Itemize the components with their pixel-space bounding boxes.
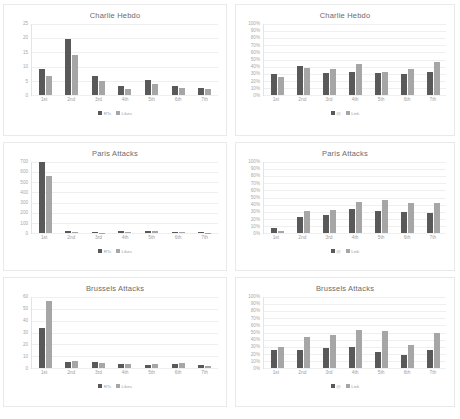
bar[interactable] xyxy=(99,81,105,95)
bar-group[interactable] xyxy=(172,24,185,95)
bar-group[interactable] xyxy=(39,297,52,368)
bar[interactable] xyxy=(172,364,178,368)
bar[interactable] xyxy=(46,176,52,233)
bar-group[interactable] xyxy=(427,297,440,368)
bar[interactable] xyxy=(179,232,185,233)
bar[interactable] xyxy=(304,211,310,233)
bar-group[interactable] xyxy=(92,162,105,233)
bar[interactable] xyxy=(72,232,78,233)
bar[interactable] xyxy=(65,362,71,368)
bar[interactable] xyxy=(356,202,362,233)
bar[interactable] xyxy=(401,74,407,95)
bar-group[interactable] xyxy=(349,24,362,95)
bar[interactable] xyxy=(179,363,185,368)
bar-group[interactable] xyxy=(427,24,440,95)
bar[interactable] xyxy=(297,66,303,95)
bar-group[interactable] xyxy=(349,297,362,368)
legend-item[interactable]: Likes xyxy=(116,111,132,116)
bar[interactable] xyxy=(39,162,45,233)
legend-item[interactable]: Link xyxy=(346,249,360,254)
bar[interactable] xyxy=(330,335,336,368)
bar[interactable] xyxy=(349,347,355,368)
bar[interactable] xyxy=(205,233,211,234)
bar-group[interactable] xyxy=(172,297,185,368)
bar[interactable] xyxy=(323,348,329,368)
bar[interactable] xyxy=(434,203,440,233)
bar-group[interactable] xyxy=(323,162,336,233)
bar[interactable] xyxy=(278,347,284,368)
bar-group[interactable] xyxy=(297,162,310,233)
bar[interactable] xyxy=(99,233,105,234)
bar[interactable] xyxy=(118,231,124,233)
bar[interactable] xyxy=(65,39,71,95)
bar[interactable] xyxy=(297,217,303,233)
bar-group[interactable] xyxy=(145,24,158,95)
legend-item[interactable]: Link xyxy=(346,111,360,116)
legend-item[interactable]: @ xyxy=(331,111,341,116)
bar-group[interactable] xyxy=(65,24,78,95)
bar-group[interactable] xyxy=(375,24,388,95)
bar[interactable] xyxy=(304,337,310,368)
bar-group[interactable] xyxy=(401,162,414,233)
bar-group[interactable] xyxy=(39,162,52,233)
bar-group[interactable] xyxy=(297,24,310,95)
bar[interactable] xyxy=(179,88,185,95)
bar[interactable] xyxy=(356,64,362,95)
bar[interactable] xyxy=(434,62,440,95)
bar[interactable] xyxy=(356,330,362,368)
bar[interactable] xyxy=(401,355,407,368)
legend-item[interactable]: Likes xyxy=(116,384,132,389)
bar[interactable] xyxy=(427,350,433,368)
bar[interactable] xyxy=(434,333,440,368)
legend-item[interactable]: Likes xyxy=(116,249,132,254)
bar[interactable] xyxy=(152,364,158,368)
bar-group[interactable] xyxy=(198,297,211,368)
bar[interactable] xyxy=(65,231,71,233)
legend-item[interactable]: @ xyxy=(331,384,341,389)
legend-item[interactable]: RTs xyxy=(98,249,111,254)
bar[interactable] xyxy=(152,84,158,95)
bar-group[interactable] xyxy=(271,162,284,233)
bar-group[interactable] xyxy=(271,24,284,95)
bar-group[interactable] xyxy=(92,24,105,95)
bar-group[interactable] xyxy=(172,162,185,233)
bar[interactable] xyxy=(125,89,131,95)
bar-group[interactable] xyxy=(375,162,388,233)
bar[interactable] xyxy=(271,350,277,368)
bar-group[interactable] xyxy=(65,162,78,233)
bar[interactable] xyxy=(375,73,381,95)
bar-group[interactable] xyxy=(297,297,310,368)
bar[interactable] xyxy=(375,211,381,233)
bar[interactable] xyxy=(118,86,124,95)
bar[interactable] xyxy=(427,213,433,233)
bar[interactable] xyxy=(172,232,178,233)
bar[interactable] xyxy=(382,72,388,95)
bar[interactable] xyxy=(72,361,78,368)
bar[interactable] xyxy=(118,364,124,368)
bar[interactable] xyxy=(198,88,204,95)
bar-group[interactable] xyxy=(118,24,131,95)
legend-item[interactable]: RTs xyxy=(98,111,111,116)
bar[interactable] xyxy=(349,209,355,233)
bar-group[interactable] xyxy=(427,162,440,233)
bar[interactable] xyxy=(278,77,284,95)
bar[interactable] xyxy=(198,365,204,368)
bar[interactable] xyxy=(152,231,158,233)
bar[interactable] xyxy=(271,74,277,95)
bar[interactable] xyxy=(297,350,303,368)
bar-group[interactable] xyxy=(118,297,131,368)
legend-item[interactable]: Link xyxy=(346,384,360,389)
bar-group[interactable] xyxy=(92,297,105,368)
bar[interactable] xyxy=(46,76,52,95)
bar[interactable] xyxy=(92,232,98,233)
bar[interactable] xyxy=(330,210,336,233)
bar-group[interactable] xyxy=(349,162,362,233)
bar[interactable] xyxy=(205,89,211,95)
bar[interactable] xyxy=(46,301,52,368)
bar[interactable] xyxy=(427,72,433,95)
bar[interactable] xyxy=(99,363,105,368)
bar-group[interactable] xyxy=(198,162,211,233)
bar[interactable] xyxy=(330,69,336,95)
bar[interactable] xyxy=(205,366,211,368)
bar[interactable] xyxy=(145,80,151,95)
